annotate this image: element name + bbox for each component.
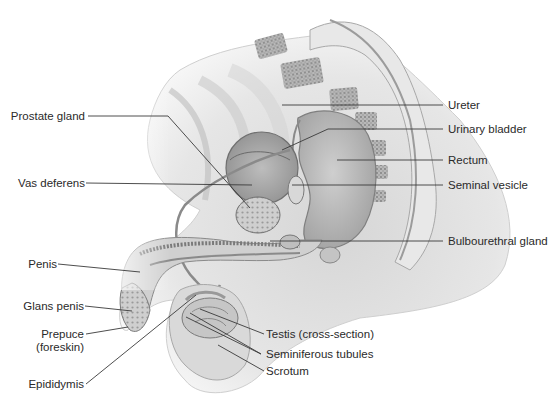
label-prepuce: Prepuce bbox=[41, 328, 84, 341]
label-epididymis: Epididymis bbox=[28, 378, 84, 391]
label-testis: Testis (cross-section) bbox=[266, 328, 374, 341]
label-prepuce-foreskin: (foreskin) bbox=[36, 341, 84, 354]
label-urinary-bladder: Urinary bladder bbox=[448, 123, 527, 136]
label-glans-penis: Glans penis bbox=[23, 300, 84, 313]
label-vas-deferens: Vas deferens bbox=[18, 177, 85, 190]
label-rectum: Rectum bbox=[448, 154, 488, 167]
label-ureter: Ureter bbox=[448, 99, 480, 112]
label-prostate-gland: Prostate gland bbox=[11, 110, 85, 123]
label-penis: Penis bbox=[28, 258, 57, 271]
label-scrotum: Scrotum bbox=[266, 365, 309, 378]
testis-shape bbox=[182, 298, 238, 338]
label-bulbourethral-gland: Bulbourethral gland bbox=[448, 235, 548, 248]
anatomy-diagram: Prostate gland Vas deferens Penis Glans … bbox=[0, 0, 555, 407]
label-seminiferous-tubules: Seminiferous tubules bbox=[266, 348, 373, 361]
label-seminal-vesicle: Seminal vesicle bbox=[448, 179, 528, 192]
